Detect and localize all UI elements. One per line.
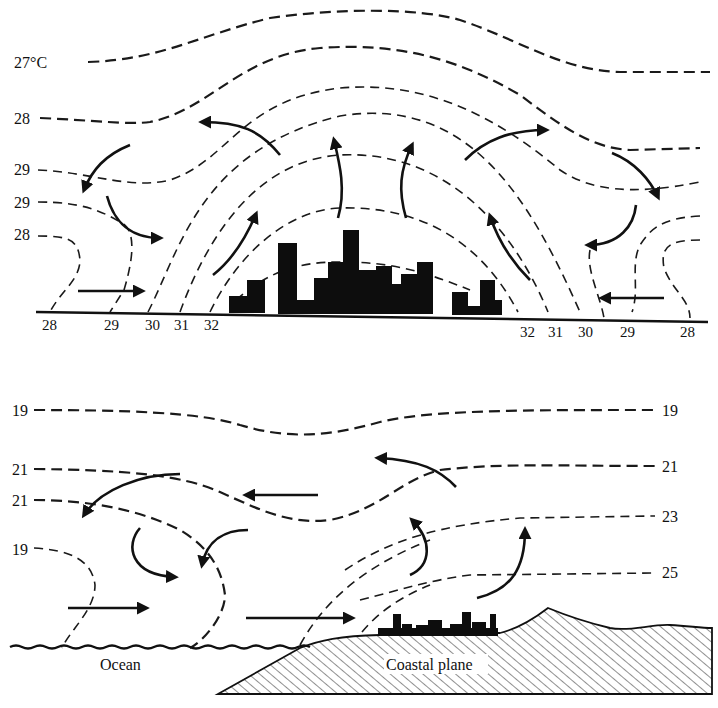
isotherm-label: 29 xyxy=(14,161,30,178)
arrow-curve-outflow-right xyxy=(465,130,546,160)
ground-temp-label: 29 xyxy=(104,317,119,333)
arrow-curve-up-left-inner xyxy=(213,214,256,275)
isotherm-label: 19 xyxy=(12,402,28,419)
ground-temp-label: 30 xyxy=(145,317,160,333)
isotherm-label: 29 xyxy=(14,194,30,211)
isotherm-label: 19 xyxy=(12,541,28,558)
arrow-curve-right-low-left xyxy=(107,196,160,238)
isotherm-28-outer xyxy=(40,47,700,150)
isotherm-label: 21 xyxy=(12,492,28,509)
isotherm-27 xyxy=(88,11,710,72)
arrow-up-center-right xyxy=(401,145,412,218)
ground-temp-label: 31 xyxy=(548,324,563,340)
arrow-curve-outflow-top xyxy=(378,458,456,487)
arrow-curve-left-low-right xyxy=(588,205,636,245)
ground-temp-label: 32 xyxy=(204,317,219,333)
ocean-surface xyxy=(10,646,310,649)
isotherm-label: 27°C xyxy=(14,54,47,71)
arrow-curve-down-mid xyxy=(202,530,248,565)
isotherm-28-left xyxy=(38,236,80,312)
city-skyline-coastal xyxy=(378,612,498,636)
coastal-plain-label: Coastal plane xyxy=(386,656,473,674)
isotherm-19-top xyxy=(34,410,655,435)
bottom-left-labels: 19 21 21 19 xyxy=(12,402,28,558)
isotherm-19-left xyxy=(34,548,95,648)
isotherm-29-outer xyxy=(38,87,700,190)
isotherm-label: 28 xyxy=(14,226,30,243)
ground-temp-label: 32 xyxy=(520,324,535,340)
isotherm-label: 25 xyxy=(662,564,678,581)
arrow-curve-outflow-left xyxy=(202,122,280,155)
isotherm-23 xyxy=(345,516,655,570)
ground-temp-label: 28 xyxy=(680,324,695,340)
isotherm-21-upper xyxy=(34,465,655,521)
top-bottom-labels-right: 32 31 30 29 28 xyxy=(520,324,695,340)
ocean-label: Ocean xyxy=(100,656,141,673)
isotherm-25 xyxy=(360,573,655,600)
isotherm-28-right xyxy=(663,240,700,318)
bottom-right-labels: 19 21 23 25 xyxy=(662,402,678,581)
isotherm-label: 21 xyxy=(662,458,678,475)
arrow-curve-down-left xyxy=(84,145,130,190)
isotherm-label: 28 xyxy=(14,110,30,127)
top-bottom-labels-left: 28 29 30 31 32 xyxy=(42,317,219,333)
isotherm-30-right xyxy=(589,250,604,318)
arrow-up-center-left xyxy=(334,140,342,218)
ground-temp-label: 30 xyxy=(578,324,593,340)
ground-temp-label: 29 xyxy=(620,324,635,340)
isotherm-label: 23 xyxy=(662,508,678,525)
arrow-curve-left-top xyxy=(84,474,180,515)
isotherm-label: 19 xyxy=(662,402,678,419)
ground-temp-label: 28 xyxy=(42,317,57,333)
urban-heat-island-diagram: 27°C 28 29 29 28 28 29 30 31 32 32 31 30… xyxy=(0,0,718,708)
top-left-labels: 27°C 28 29 29 28 xyxy=(14,54,47,243)
arrow-curve-up-right-inner xyxy=(490,216,530,280)
arrow-curve-uturn xyxy=(132,528,175,577)
arrow-up-coast-right xyxy=(477,530,525,598)
isotherm-label: 21 xyxy=(12,461,28,478)
ground-temp-label: 31 xyxy=(174,317,189,333)
airflow-arrows-bottom xyxy=(68,458,525,618)
bottom-panel: 19 21 21 19 19 21 23 25 Ocean Coastal pl… xyxy=(10,402,712,694)
top-panel: 27°C 28 29 29 28 28 29 30 31 32 32 31 30… xyxy=(14,11,710,340)
isotherm-21-lower xyxy=(34,500,225,648)
